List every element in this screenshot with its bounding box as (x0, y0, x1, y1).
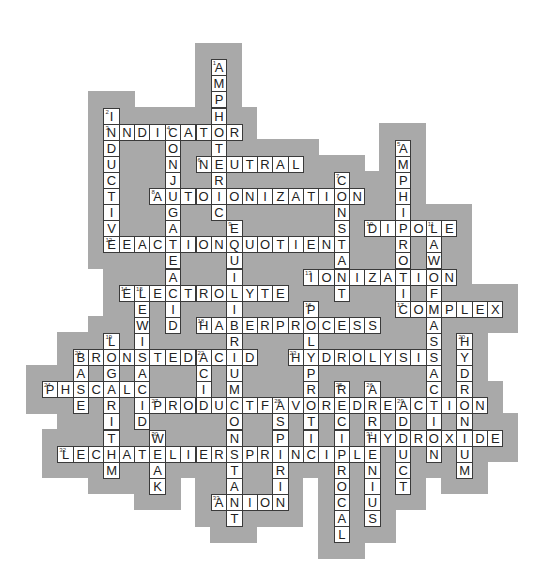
crossword-cell[interactable]: R (303, 381, 319, 398)
crossword-cell[interactable]: 3N (103, 124, 119, 141)
crossword-cell[interactable]: D (134, 413, 150, 430)
crossword-cell[interactable]: I (242, 494, 258, 511)
crossword-cell[interactable]: N (364, 462, 380, 479)
crossword-cell[interactable]: U (226, 156, 242, 173)
crossword-cell[interactable]: 9E (226, 220, 242, 237)
crossword-cell[interactable]: I (272, 446, 288, 463)
crossword-cell[interactable]: 10D (364, 220, 380, 237)
crossword-cell[interactable]: O (318, 269, 334, 286)
crossword-cell[interactable]: P (211, 91, 227, 108)
crossword-cell[interactable]: T (426, 397, 442, 414)
crossword-cell[interactable]: O (226, 188, 242, 205)
crossword-cell[interactable]: S (395, 349, 411, 366)
crossword-cell[interactable]: R (257, 446, 273, 463)
crossword-cell[interactable]: E (242, 317, 258, 334)
crossword-cell[interactable]: T (395, 478, 411, 495)
crossword-cell[interactable]: 22A (196, 349, 212, 366)
crossword-cell[interactable]: T (134, 446, 150, 463)
crossword-cell[interactable]: A (288, 188, 304, 205)
crossword-cell[interactable]: A (103, 381, 119, 398)
crossword-cell[interactable]: 31H (364, 430, 380, 447)
crossword-cell[interactable]: I (257, 188, 273, 205)
crossword-cell[interactable]: C (410, 397, 426, 414)
crossword-cell[interactable]: N (272, 494, 288, 511)
crossword-cell[interactable]: L (334, 526, 350, 543)
crossword-cell[interactable]: R (196, 285, 212, 302)
crossword-cell[interactable]: O (426, 430, 442, 447)
crossword-cell[interactable]: C (211, 349, 227, 366)
crossword-cell[interactable]: Y (380, 349, 396, 366)
crossword-cell[interactable]: O (211, 285, 227, 302)
crossword-cell[interactable]: E (149, 285, 165, 302)
crossword-cell[interactable]: O (257, 494, 273, 511)
crossword-cell[interactable]: T (180, 285, 196, 302)
crossword-cell[interactable]: 17C (395, 301, 411, 318)
crossword-cell[interactable]: S (364, 510, 380, 527)
crossword-cell[interactable]: M (456, 462, 472, 479)
crossword-cell[interactable]: U (103, 156, 119, 173)
crossword-cell[interactable]: O (410, 220, 426, 237)
crossword-cell[interactable]: I (180, 236, 196, 253)
crossword-cell[interactable]: U (242, 236, 258, 253)
crossword-cell[interactable]: O (456, 397, 472, 414)
crossword-cell[interactable]: 20H (456, 333, 472, 350)
crossword-cell[interactable]: T (149, 349, 165, 366)
crossword-cell[interactable]: I (334, 430, 350, 447)
crossword-cell[interactable]: V (288, 397, 304, 414)
crossword-cell[interactable]: G (165, 204, 181, 221)
crossword-cell[interactable]: A (165, 269, 181, 286)
crossword-cell[interactable]: R (257, 156, 273, 173)
crossword-cell[interactable]: R (410, 430, 426, 447)
crossword-cell[interactable]: D (165, 317, 181, 334)
crossword-cell[interactable]: P (395, 220, 411, 237)
crossword-cell[interactable]: C (334, 494, 350, 511)
crossword-cell[interactable]: O (303, 317, 319, 334)
crossword-cell[interactable]: T (211, 140, 227, 157)
crossword-cell[interactable]: N (226, 494, 242, 511)
crossword-cell[interactable]: E (165, 349, 181, 366)
crossword-cell[interactable]: O (334, 188, 350, 205)
crossword-cell[interactable]: H (395, 188, 411, 205)
crossword-cell[interactable]: E (364, 446, 380, 463)
crossword-cell[interactable]: M (211, 75, 227, 92)
crossword-cell[interactable]: E (487, 430, 503, 447)
crossword-cell[interactable]: L (119, 381, 135, 398)
crossword-cell[interactable]: P (272, 317, 288, 334)
crossword-cell[interactable]: U (456, 446, 472, 463)
crossword-cell[interactable]: H (103, 446, 119, 463)
crossword-cell[interactable]: U (165, 188, 181, 205)
crossword-cell[interactable]: U (226, 252, 242, 269)
crossword-cell[interactable]: X (441, 430, 457, 447)
crossword-cell[interactable]: N (242, 188, 258, 205)
crossword-cell[interactable]: O (334, 478, 350, 495)
crossword-cell[interactable]: U (211, 397, 227, 414)
crossword-cell[interactable]: E (73, 397, 89, 414)
crossword-cell[interactable]: O (257, 236, 273, 253)
crossword-cell[interactable]: N (165, 156, 181, 173)
crossword-cell[interactable]: G (103, 365, 119, 382)
crossword-cell[interactable]: R (226, 124, 242, 141)
crossword-cell[interactable]: 30W (149, 430, 165, 447)
crossword-cell[interactable]: T (242, 156, 258, 173)
crossword-cell[interactable]: W (426, 252, 442, 269)
crossword-cell[interactable]: R (211, 172, 227, 189)
crossword-cell[interactable]: 25R (334, 381, 350, 398)
crossword-cell[interactable]: A (73, 365, 89, 382)
crossword-cell[interactable]: A (119, 446, 135, 463)
crossword-cell[interactable]: 33A (211, 494, 227, 511)
crossword-cell[interactable]: T (226, 462, 242, 479)
crossword-cell[interactable]: L (165, 446, 181, 463)
crossword-cell[interactable]: D (180, 349, 196, 366)
crossword-cell[interactable]: D (103, 140, 119, 157)
crossword-cell[interactable]: R (257, 317, 273, 334)
crossword-cell[interactable]: I (395, 204, 411, 221)
crossword-cell[interactable]: 4C (165, 124, 181, 141)
crossword-cell[interactable]: D (395, 430, 411, 447)
crossword-cell[interactable]: A (134, 236, 150, 253)
crossword-cell[interactable]: C (395, 462, 411, 479)
crossword-cell[interactable]: Y (242, 285, 258, 302)
crossword-cell[interactable]: S (364, 317, 380, 334)
crossword-cell[interactable]: O (395, 252, 411, 269)
crossword-cell[interactable]: T (165, 236, 181, 253)
crossword-cell[interactable]: L (226, 285, 242, 302)
